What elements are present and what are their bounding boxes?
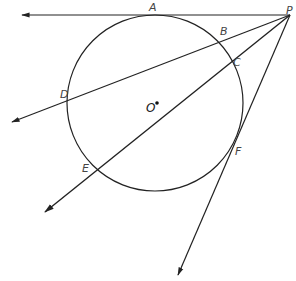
label-d: D: [60, 88, 68, 101]
center-point-o: [155, 101, 159, 105]
geometry-diagram: A B C D E F P O: [0, 0, 296, 281]
label-o: O: [146, 101, 155, 115]
tangent-line-pf: [178, 15, 290, 275]
label-p: P: [286, 4, 293, 17]
label-f: F: [235, 145, 242, 158]
diagram-canvas: A B C D E F P O: [0, 0, 296, 281]
label-a: A: [148, 1, 157, 14]
label-b: B: [220, 25, 228, 38]
secant-line-pce: [45, 15, 290, 212]
label-c: C: [233, 56, 241, 69]
label-e: E: [82, 162, 89, 175]
